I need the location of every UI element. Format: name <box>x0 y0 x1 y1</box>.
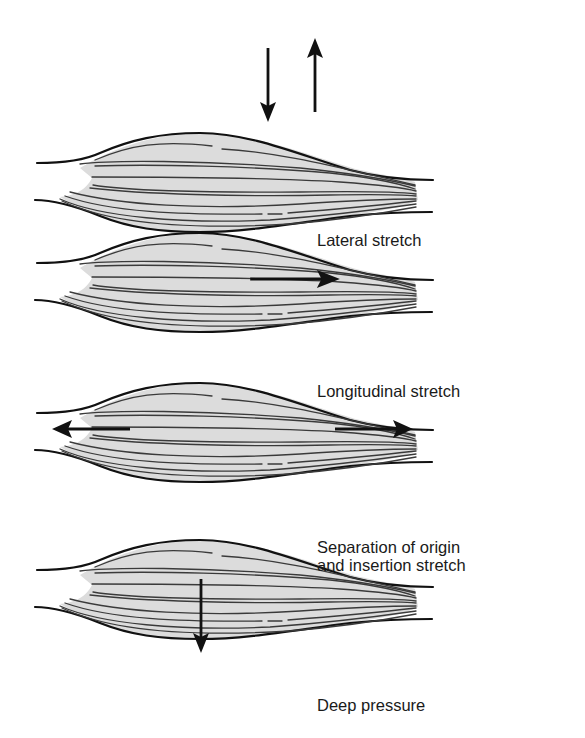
arrow-down-icon <box>260 48 276 122</box>
label-deep-pressure: Deep pressure <box>317 696 425 715</box>
label-separation-line1: Separation of origin <box>317 538 460 557</box>
arrow-up-icon <box>307 38 323 112</box>
muscle-illustration <box>35 133 433 233</box>
panel-lateral-stretch <box>35 38 433 233</box>
label-lateral-stretch: Lateral stretch <box>317 231 422 250</box>
label-separation-line2: and insertion stretch <box>317 556 466 575</box>
muscle-stretch-diagram <box>0 0 585 738</box>
label-longitudinal-stretch: Longitudinal stretch <box>317 382 460 401</box>
